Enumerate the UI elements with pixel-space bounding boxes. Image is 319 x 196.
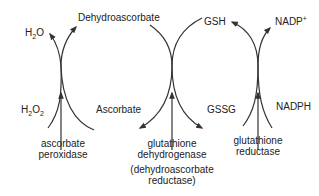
label-dehydroascorbate: Dehydroascorbate <box>78 12 160 23</box>
label-gsh: GSH <box>204 16 226 27</box>
enzyme-glutathione-reductase: glutathione reductase <box>234 135 283 157</box>
label-h2o: H2O <box>25 27 44 38</box>
label-nadp-plus: NADP+ <box>275 16 307 27</box>
label-ascorbate: Ascorbate <box>96 104 141 115</box>
enzyme-alt-name: (dehydroascorbate reductase) <box>130 164 213 186</box>
arc-ascorbate-to-dha <box>61 27 94 130</box>
label-h2o2: H2O2 <box>21 104 44 115</box>
enzyme-glutathione-dehydrogenase: glutathione dehydrogenase <box>138 138 207 160</box>
arc-h2o2-to-h2o <box>48 34 61 128</box>
label-nadph: NADPH <box>276 101 311 112</box>
arc-nadph-to-nadp <box>258 28 272 128</box>
enzyme-ascorbate-peroxidase: ascorbate peroxidase <box>39 138 88 160</box>
arc-gsh-to-gssg <box>172 18 202 128</box>
arc-dha-to-ascorbate <box>140 25 172 128</box>
label-gssg: GSSG <box>207 104 236 115</box>
